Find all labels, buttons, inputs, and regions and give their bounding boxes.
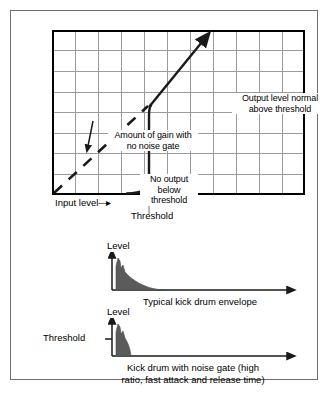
annotation-output-normal: Output level normal above threshold	[232, 93, 328, 114]
envelope-gated-svg	[105, 318, 300, 363]
transfer-curve-graph: Amount of gain with no noise gate No out…	[52, 30, 305, 195]
noise-gate-figure: Amount of gain with no noise gate No out…	[0, 0, 333, 397]
x-axis-label-group: Input level—▸	[55, 197, 109, 208]
envelope-typical-panel: Level Typical kick drum envelope	[105, 252, 300, 297]
annotation-no-output: No output below threshold	[140, 174, 198, 206]
envelope-typical-svg	[105, 252, 300, 297]
envelope-typical-shape	[116, 258, 165, 290]
envelope-typical-caption: Typical kick drum envelope	[100, 296, 300, 308]
envelope-gated-shape	[116, 324, 131, 356]
annotation-gain: Amount of gain with no noise gate	[108, 130, 198, 151]
envelope-gated-caption: Kick drum with noise gate (high ratio, f…	[83, 362, 303, 385]
envelope-gated-threshold-label: Threshold	[43, 332, 85, 343]
threshold-axis-label: Threshold	[131, 210, 173, 221]
envelope-typical-level-label: Level	[107, 240, 130, 251]
envelope-gated-panel: Level Threshold Kick drum with noise gat…	[105, 318, 300, 363]
x-axis-arrow-glyph: —▸	[98, 197, 109, 208]
x-axis-label: Input level	[55, 197, 98, 208]
envelope-gated-level-label: Level	[107, 306, 130, 317]
